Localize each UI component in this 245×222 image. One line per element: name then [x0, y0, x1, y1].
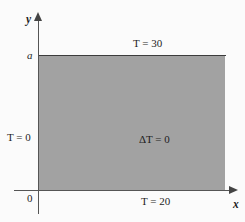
y-axis-arrow-icon — [34, 12, 42, 21]
bottom-boundary-condition-label: T = 20 — [141, 196, 170, 207]
plate-region — [38, 56, 225, 190]
y-axis-label: y — [26, 14, 31, 26]
left-boundary-condition-label: T = 0 — [7, 132, 31, 143]
plate-top-edge — [38, 55, 226, 56]
x-axis-line — [14, 190, 232, 191]
y-axis-tick-a: a — [27, 50, 33, 61]
origin-label: 0 — [27, 193, 33, 204]
top-boundary-condition-label: T = 30 — [133, 38, 162, 49]
y-axis-line — [38, 18, 39, 214]
x-axis-label: x — [233, 199, 239, 211]
interior-equation-label: ΔT = 0 — [139, 134, 170, 145]
x-axis-arrow-icon — [229, 186, 238, 194]
heat-conduction-figure: y x a 0 T = 30 T = 0 T = 20 ΔT = 0 — [0, 0, 245, 222]
